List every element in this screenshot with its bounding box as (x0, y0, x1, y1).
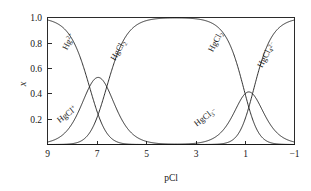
plot-frame (48, 18, 295, 145)
curve-HgCl3- (48, 92, 295, 145)
x-tick-label-5: 1 (243, 149, 248, 159)
curve-HgCl+ (48, 77, 295, 144)
y-tick-label-3: 0.6 (30, 64, 42, 74)
x-tick-label-1: 9 (45, 149, 50, 159)
curve-Hg2+ (48, 20, 295, 145)
species-curves (48, 18, 295, 145)
curve-label-HgCl2-4: HgCl42− (255, 39, 278, 70)
x-axis-title: pCl (164, 173, 178, 183)
speciation-chart: 1.0 0.8 0.6 0.4 0.2 9 7 5 3 1 −1 x pCl H… (0, 0, 311, 191)
y-axis-title: x (17, 81, 28, 87)
x-tick-label-3: 5 (144, 149, 149, 159)
curve-label-Hg2+: Hg2+ (59, 31, 77, 52)
curve-label-HgCl+: HgCl+ (54, 102, 79, 125)
curve-label-HgCl2-right: HgCl2 (206, 30, 226, 54)
y-tick-labels: 1.0 0.8 0.6 0.4 0.2 (30, 13, 42, 125)
x-tick-label-4: 3 (194, 149, 199, 159)
y-axis-ticks (48, 18, 52, 120)
y-tick-label-2: 0.8 (30, 39, 42, 49)
curve-HgCl2-4 (48, 20, 295, 144)
y-tick-label-1: 1.0 (30, 13, 42, 23)
curve-HgCl2 (48, 18, 295, 145)
y-tick-label-4: 0.4 (30, 89, 42, 99)
curve-label-HgCl3-: HgCl3− (192, 105, 219, 130)
x-tick-label-2: 7 (95, 149, 100, 159)
x-tick-labels: 9 7 5 3 1 −1 (45, 149, 300, 159)
y-tick-label-5: 0.2 (30, 115, 42, 125)
curve-label-HgCl2: HgCl2 (108, 38, 128, 62)
x-tick-label-6: −1 (289, 149, 299, 159)
speciation-figure: 1.0 0.8 0.6 0.4 0.2 9 7 5 3 1 −1 x pCl H… (0, 0, 311, 191)
